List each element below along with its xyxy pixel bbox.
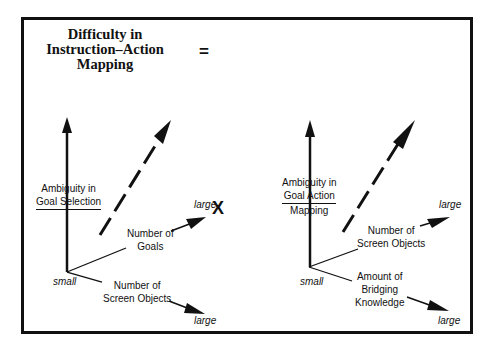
left-objects-large-label: large <box>194 314 216 327</box>
title-line-1: Difficulty in <box>40 27 170 42</box>
diagram-title: Difficulty in Instruction–Action Mapping <box>40 27 170 72</box>
label-line: Knowledge <box>355 296 404 309</box>
left-y-axis-label: Ambiguity in Goal Selection <box>36 182 101 210</box>
right-bridging-large-label: large <box>438 314 460 327</box>
label-line: Number of <box>103 279 171 292</box>
label-line: Mapping <box>282 204 336 217</box>
arrow-up-icon <box>62 117 72 133</box>
arrow-diagonal-icon <box>154 120 171 144</box>
arrow-up-icon <box>305 120 315 137</box>
arrow-objects-icon <box>184 303 205 314</box>
label-line: Goals <box>127 240 174 253</box>
right-objects-large-label: large <box>439 198 461 211</box>
left-objects-label: Number of Screen Objects <box>103 279 171 305</box>
right-bridging-label: Amount of Bridging Knowledge <box>355 270 404 309</box>
label-line: Amount of <box>355 270 404 283</box>
arrow-goals-icon <box>186 217 206 229</box>
right-objects-label: Number of Screen Objects <box>357 224 425 250</box>
label-line: Screen Objects <box>357 237 425 250</box>
title-line-3: Mapping <box>40 57 170 72</box>
label-line: Number of <box>357 224 425 237</box>
equals-operator: = <box>199 42 209 62</box>
label-line: Goal Action <box>282 189 336 204</box>
left-goals-large-label: large <box>194 198 216 211</box>
label-line: Screen Objects <box>103 292 171 305</box>
label-line: Ambiguity in <box>36 182 101 195</box>
label-line: Number of <box>127 227 174 240</box>
left-origin-small-label: small <box>53 275 76 288</box>
left-goals-label: Number of Goals <box>127 227 174 253</box>
label-line: Bridging <box>355 283 404 296</box>
right-y-axis-label: Ambiguity in Goal Action Mapping <box>282 176 336 217</box>
right-origin-small-label: small <box>300 275 323 288</box>
label-line: Goal Selection <box>36 195 101 210</box>
title-line-2: Instruction–Action <box>40 42 170 57</box>
label-line: Ambiguity in <box>282 176 336 189</box>
arrow-bridging-icon <box>427 300 449 311</box>
